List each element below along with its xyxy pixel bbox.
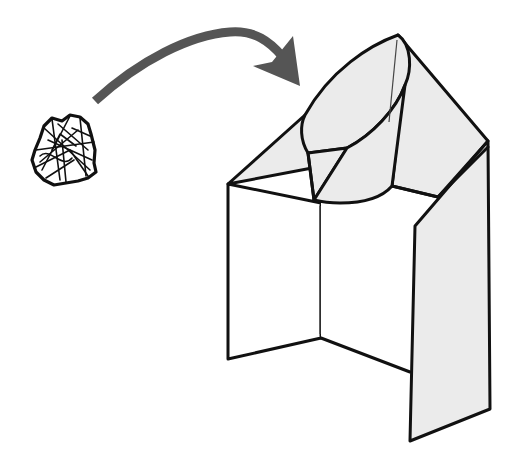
left-panel bbox=[228, 184, 321, 359]
folded-paper-structure bbox=[228, 35, 490, 441]
origami-diagram bbox=[0, 0, 516, 464]
left-roof bbox=[228, 115, 312, 184]
curved-arrow-icon bbox=[95, 32, 300, 101]
crumpled-paper-ball-icon bbox=[32, 115, 96, 185]
diagram-canvas: Crumpled paper ball with curved arrow po… bbox=[0, 0, 516, 464]
